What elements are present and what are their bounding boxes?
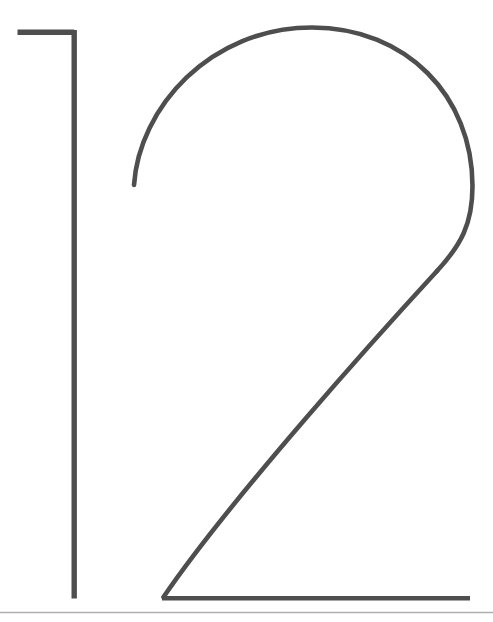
page-canvas: 12 Large outline-drawn display numerals … — [0, 0, 493, 622]
numerals-artwork — [0, 0, 493, 622]
